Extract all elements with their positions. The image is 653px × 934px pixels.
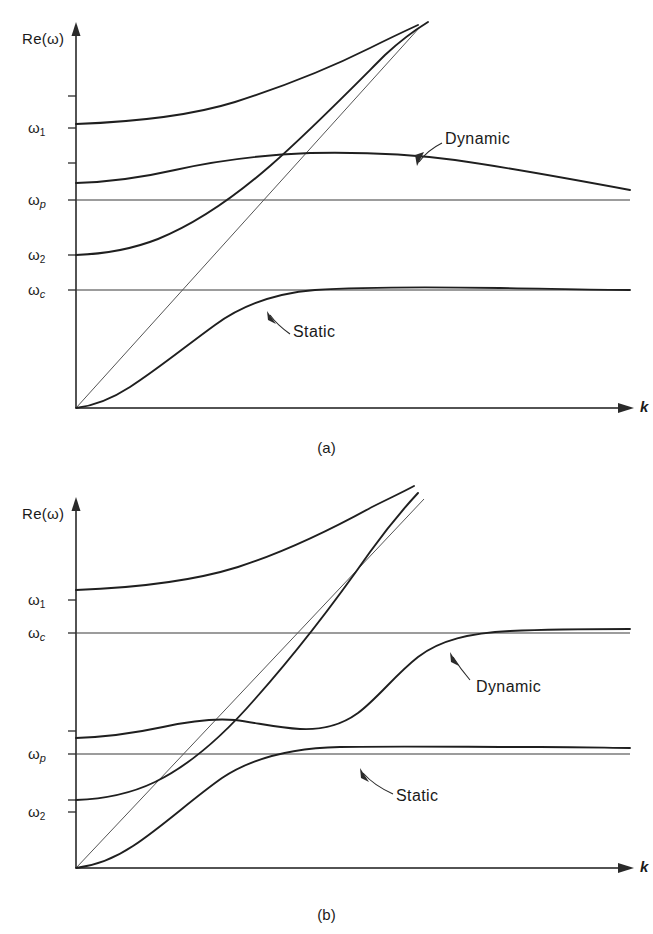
y-axis-ticks-a bbox=[68, 96, 76, 290]
panel-caption-a: (a) bbox=[0, 440, 653, 455]
panel-a-plot bbox=[0, 0, 653, 467]
panel-b-plot bbox=[0, 467, 653, 934]
dispersion-figure: Re(ω) ω1 ωp ω2 ωc k Dynamic Static (a) bbox=[0, 0, 653, 934]
light-line-a bbox=[76, 27, 420, 408]
tick-label-omega-p-a: ωp bbox=[28, 192, 46, 210]
y-axis-ticks-b bbox=[68, 600, 76, 812]
tick-label-omega-c-b: ωc bbox=[28, 625, 45, 643]
x-axis-a bbox=[76, 403, 634, 413]
annotation-static-b: Static bbox=[396, 788, 438, 804]
tick-label-omega-1-a: ω1 bbox=[28, 120, 45, 138]
y-axis-label-a: Re(ω) bbox=[22, 31, 64, 46]
dynamic-leader-a bbox=[415, 143, 442, 166]
panel-b: Re(ω) ω1 ωc ωp ω2 k Dynamic Static (b) bbox=[0, 467, 653, 934]
light-line-b bbox=[76, 499, 424, 868]
x-axis-b bbox=[76, 863, 634, 873]
annotation-dynamic-b: Dynamic bbox=[476, 679, 541, 695]
static-leader-b bbox=[360, 768, 393, 794]
x-axis-label-b: k bbox=[640, 859, 648, 874]
panel-a: Re(ω) ω1 ωp ω2 ωc k Dynamic Static (a) bbox=[0, 0, 653, 467]
tick-label-omega-p-b: ωp bbox=[28, 746, 46, 764]
static-leader-a bbox=[267, 311, 290, 334]
dynamic-leader-b bbox=[450, 652, 470, 680]
tick-label-omega-2-b: ω2 bbox=[28, 804, 45, 822]
static-branch-a bbox=[76, 287, 630, 408]
dynamic-branch-b bbox=[76, 629, 630, 738]
lower-branch-a bbox=[76, 22, 428, 255]
x-axis-label-a: k bbox=[640, 399, 648, 414]
dynamic-branch-a bbox=[76, 153, 630, 190]
static-branch-b bbox=[76, 747, 630, 868]
tick-label-omega-1-b: ω1 bbox=[28, 592, 45, 610]
panel-caption-b: (b) bbox=[0, 907, 653, 922]
y-axis-a bbox=[72, 22, 81, 408]
tick-label-omega-c-a: ωc bbox=[28, 282, 45, 300]
annotation-static-a: Static bbox=[293, 324, 335, 340]
annotation-dynamic-a: Dynamic bbox=[445, 131, 510, 147]
tick-label-omega-2-a: ω2 bbox=[28, 247, 45, 265]
upper-branch-b bbox=[76, 486, 414, 590]
y-axis-label-b: Re(ω) bbox=[22, 506, 64, 521]
